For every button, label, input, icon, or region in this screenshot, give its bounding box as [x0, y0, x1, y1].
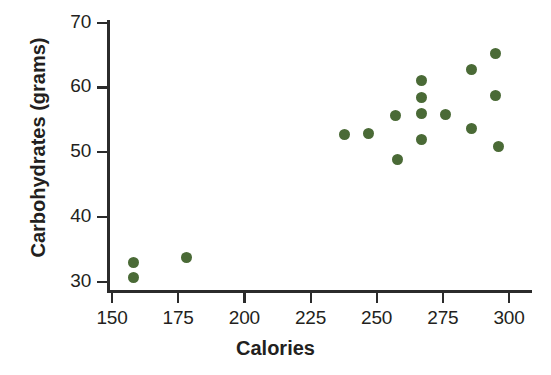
x-axis-tick-label: 250: [347, 307, 407, 329]
x-axis-line: [107, 290, 532, 293]
y-axis-tick: [97, 281, 108, 283]
x-axis-tick-label: 300: [479, 307, 539, 329]
data-point: [416, 75, 427, 86]
x-axis-tick-label: 175: [148, 307, 208, 329]
data-point: [181, 252, 192, 263]
x-axis-tick: [310, 292, 312, 303]
y-axis-tick: [97, 86, 108, 88]
data-point: [128, 257, 139, 268]
scatter-plot-figure: 3040506070 150175200225250275300 Calorie…: [0, 0, 551, 375]
y-axis-tick-label: 50: [47, 140, 91, 162]
x-axis-tick: [111, 292, 113, 303]
y-axis-title: Carbohydrates (grams): [27, 0, 50, 298]
data-point: [490, 90, 501, 101]
data-point: [416, 108, 427, 119]
y-axis-tick-label: 70: [47, 11, 91, 33]
x-axis-tick: [442, 292, 444, 303]
x-axis-title: Calories: [0, 337, 551, 360]
x-axis-tick-label: 225: [281, 307, 341, 329]
data-point: [390, 110, 401, 121]
y-axis-tick-label: 30: [47, 270, 91, 292]
x-axis-tick-label: 275: [413, 307, 473, 329]
data-point: [440, 109, 451, 120]
data-point: [363, 128, 374, 139]
y-axis-tick: [97, 216, 108, 218]
y-axis-line: [107, 20, 110, 293]
data-point: [490, 48, 501, 59]
x-axis-tick-label: 200: [214, 307, 274, 329]
y-axis-tick-label: 60: [47, 75, 91, 97]
y-axis-tick-label: 40: [47, 205, 91, 227]
data-point: [339, 129, 350, 140]
data-point: [493, 141, 504, 152]
x-axis-tick-label: 150: [82, 307, 142, 329]
x-axis-tick: [508, 292, 510, 303]
x-axis-tick: [376, 292, 378, 303]
y-axis-tick: [97, 151, 108, 153]
data-point: [416, 92, 427, 103]
x-axis-tick: [177, 292, 179, 303]
y-axis-tick: [97, 22, 108, 24]
x-axis-tick: [243, 292, 245, 303]
data-point: [466, 123, 477, 134]
data-point: [392, 154, 403, 165]
plot-area: [108, 18, 520, 291]
data-point: [466, 64, 477, 75]
data-point: [416, 134, 427, 145]
data-point: [128, 272, 139, 283]
